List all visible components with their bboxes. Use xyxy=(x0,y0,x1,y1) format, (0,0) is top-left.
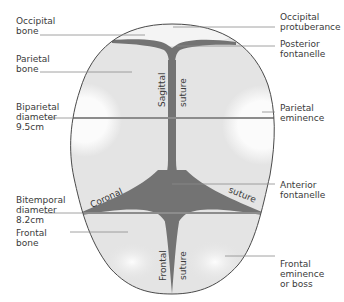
label-posterior-fontanelle: Posterior fontanelle xyxy=(280,39,325,59)
label-frontal: Frontal xyxy=(158,250,168,281)
label-bitemporal-diameter: Bitemporal diameter 8.2cm xyxy=(16,195,65,225)
label-frontal-bone: Frontal bone xyxy=(16,228,47,248)
label-sagittal-suture: suture xyxy=(178,78,188,107)
label-frontal-eminence: Frontal eminence or boss xyxy=(280,259,324,289)
label-parietal-eminence: Parietal eminence xyxy=(280,103,324,123)
right-frontal-eminence-highlight xyxy=(185,240,245,284)
label-sagittal: Sagittal xyxy=(157,72,167,107)
label-occipital-bone: Occipital bone xyxy=(16,16,55,36)
label-parietal-bone: Parietal bone xyxy=(16,54,50,74)
label-biparietal-diameter: Biparietal diameter 9.5cm xyxy=(16,102,59,132)
label-frontal-suture: suture xyxy=(178,251,188,280)
left-frontal-eminence-highlight xyxy=(104,242,160,282)
label-anterior-fontanelle: Anterior fontanelle xyxy=(280,180,325,200)
label-occipital-protuberance: Occipital protuberance xyxy=(280,12,341,32)
fetal-skull-diagram: Sagittal suture Coronal suture Frontal s… xyxy=(0,0,344,302)
right-parietal-eminence-highlight xyxy=(222,85,302,165)
